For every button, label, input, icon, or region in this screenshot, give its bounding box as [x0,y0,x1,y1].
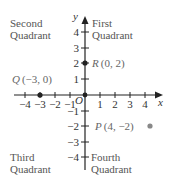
fourth-quadrant-label: Fourth [91,151,121,163]
x-tick-label: 3 [127,98,133,110]
y-tick-label: 1 [74,73,80,85]
y-tick-label: 4 [74,26,80,38]
x-tick-label: 1 [97,98,103,110]
point-r-label: R(0, 2) [91,57,125,70]
y-tick-label: −4 [67,151,79,163]
y-tick-label: −3 [67,136,79,148]
x-tick-label: 2 [112,98,118,110]
y-axis-label: y [72,10,78,22]
coordinate-plane: −4 −3 −2 −1 1 2 3 4 x y O 4 3 2 1 −1 −2 … [0,0,172,185]
second-quadrant-label: Quadrant [10,29,51,41]
x-tick-label: −2 [49,98,61,110]
point-q-marker [37,92,42,97]
y-axis-arrow-icon [82,16,89,24]
origin-marker [83,93,88,98]
point-p-marker [147,123,152,128]
y-tick-label: 2 [74,57,80,69]
first-quadrant-label: First [92,17,112,29]
x-tick-label: 4 [142,98,148,110]
x-tick-label: −4 [19,98,31,110]
second-quadrant-label: Second [10,17,43,29]
x-tick-labels: −4 −3 −2 −1 1 2 3 4 [19,98,148,110]
y-tick-label: 3 [74,42,80,54]
y-tick-label: −1 [67,105,79,117]
first-quadrant-label: Quadrant [92,29,133,41]
third-quadrant-label: Third [10,151,35,163]
point-q-label: Q(−3, 0) [12,73,52,86]
point-r-marker [82,60,87,65]
y-tick-label: −2 [67,120,79,132]
fourth-quadrant-label: Quadrant [91,163,132,175]
third-quadrant-label: Quadrant [10,163,51,175]
point-p-label: P(4, −2) [94,120,134,133]
x-tick-label: −3 [34,98,46,110]
x-axis-label: x [157,96,163,108]
